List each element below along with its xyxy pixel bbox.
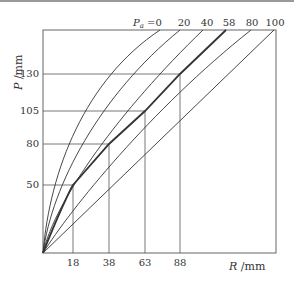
x-axis-label: R /mm	[228, 260, 266, 273]
curve-labels: Pa =0 20 40 58 80 100	[132, 17, 285, 30]
curve-label-40: 40	[201, 17, 214, 28]
x-tick-88: 88	[174, 257, 187, 268]
ref-line-63-105	[43, 111, 145, 253]
curve-pa-100	[43, 30, 274, 253]
curve-label-80: 80	[246, 17, 259, 28]
curve-label-pa-0: Pa =0	[132, 17, 162, 30]
y-tick-105: 105	[20, 105, 39, 116]
y-tick-80: 80	[26, 138, 39, 149]
x-tick-18: 18	[67, 257, 80, 268]
curve-pa-40	[43, 30, 203, 253]
curve-label-100: 100	[265, 17, 284, 28]
y-tick-50: 50	[26, 179, 39, 190]
curve-label-20: 20	[178, 17, 191, 28]
pa-zero: =0	[144, 17, 162, 28]
curves	[43, 30, 274, 253]
y-axis-unit: /mm	[12, 54, 25, 83]
curve-pa-80	[43, 30, 251, 253]
chart: 50 80 105 130 18 38 63 88 Pa =0 20 40 58…	[0, 0, 294, 285]
y-axis-label: P /mm	[12, 54, 25, 91]
x-tick-38: 38	[103, 257, 116, 268]
x-axis-var: R	[228, 260, 237, 273]
x-axis-ticks: 18 38 63 88	[67, 257, 187, 268]
curve-pa-0	[43, 30, 160, 253]
x-axis-unit: /mm	[237, 260, 266, 273]
curve-label-58: 58	[223, 17, 236, 28]
x-tick-63: 63	[139, 257, 152, 268]
